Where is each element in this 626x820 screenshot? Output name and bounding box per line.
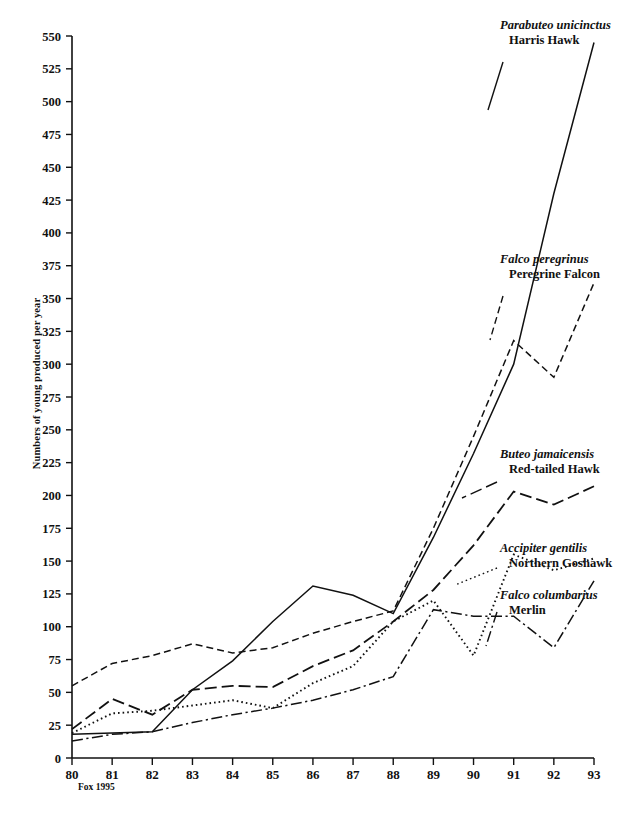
series-common-name: Peregrine Falcon bbox=[500, 267, 600, 282]
y-tick-label: 525 bbox=[42, 62, 61, 76]
x-tick-label: 83 bbox=[186, 767, 200, 782]
leader-line bbox=[486, 612, 497, 646]
series-label-northern-goshawk: Accipiter gentilis Northern Goshawk bbox=[500, 541, 612, 571]
y-tick-label: 425 bbox=[42, 194, 61, 208]
y-tick-label: 150 bbox=[42, 555, 61, 569]
source-note: Fox 1995 bbox=[78, 782, 115, 792]
chart-plot-area: 0255075100125150175200225250275300325350… bbox=[0, 0, 626, 820]
series-label-harris-hawk: Parabuteo unicinctus Harris Hawk bbox=[500, 18, 611, 48]
y-tick-label: 225 bbox=[42, 456, 61, 470]
series-scientific-name: Parabuteo unicinctus bbox=[500, 18, 611, 33]
leader-line bbox=[462, 482, 497, 498]
y-tick-label: 0 bbox=[55, 752, 61, 766]
x-tick-label: 84 bbox=[226, 767, 240, 782]
x-tick-label: 91 bbox=[507, 767, 520, 782]
y-tick-label: 275 bbox=[42, 391, 61, 405]
series-scientific-name: Buteo jamaicensis bbox=[500, 447, 600, 462]
y-tick-label: 100 bbox=[42, 620, 61, 634]
series-common-name: Merlin bbox=[500, 603, 598, 618]
x-tick-label: 87 bbox=[347, 767, 361, 782]
y-tick-label: 125 bbox=[42, 587, 61, 601]
series-scientific-name: Falco peregrinus bbox=[500, 252, 600, 267]
x-tick-label: 92 bbox=[547, 767, 560, 782]
data-series-group bbox=[72, 43, 594, 741]
x-tick-label: 88 bbox=[387, 767, 401, 782]
y-tick-label: 250 bbox=[42, 423, 61, 437]
y-tick-label: 25 bbox=[49, 719, 62, 733]
y-tick-label: 300 bbox=[42, 358, 61, 372]
x-tick-label: 82 bbox=[146, 767, 159, 782]
series-scientific-name: Accipiter gentilis bbox=[500, 541, 612, 556]
x-tick-label: 81 bbox=[106, 767, 119, 782]
x-tick-label: 89 bbox=[427, 767, 441, 782]
x-tick-label: 93 bbox=[588, 767, 602, 782]
y-tick-label: 200 bbox=[42, 489, 61, 503]
series-label-peregrine-falcon: Falco peregrinus Peregrine Falcon bbox=[500, 252, 600, 282]
y-tick-label: 50 bbox=[49, 686, 62, 700]
y-tick-label: 75 bbox=[49, 653, 62, 667]
series-label-red-tailed-hawk: Buteo jamaicensis Red-tailed Hawk bbox=[500, 447, 600, 477]
y-tick-label: 325 bbox=[42, 325, 61, 339]
series-line-northern-goshawk bbox=[72, 555, 594, 734]
series-common-name: Northern Goshawk bbox=[500, 556, 612, 571]
series-line-peregrine-falcon bbox=[72, 283, 594, 686]
y-tick-label: 400 bbox=[42, 226, 61, 240]
y-tick-label: 550 bbox=[42, 30, 61, 44]
y-tick-label: 500 bbox=[42, 95, 61, 109]
y-tick-label: 375 bbox=[42, 259, 61, 273]
x-tick-label: 85 bbox=[266, 767, 280, 782]
series-common-name: Red-tailed Hawk bbox=[500, 462, 600, 477]
x-tick-label: 90 bbox=[467, 767, 480, 782]
series-common-name: Harris Hawk bbox=[500, 33, 611, 48]
series-scientific-name: Falco columbarius bbox=[500, 588, 598, 603]
leader-line bbox=[490, 296, 503, 340]
y-tick-label: 175 bbox=[42, 522, 61, 536]
y-tick-label: 350 bbox=[42, 292, 61, 306]
x-tick-label: 80 bbox=[66, 767, 79, 782]
series-line-harris-hawk bbox=[72, 43, 594, 735]
y-axis-ticks: 0255075100125150175200225250275300325350… bbox=[42, 30, 72, 766]
leader-line bbox=[488, 62, 503, 110]
y-tick-label: 450 bbox=[42, 161, 61, 175]
leader-line bbox=[455, 568, 497, 585]
chart-figure: Numbers of young produced per year 02550… bbox=[0, 0, 626, 820]
x-axis-ticks: 8081828384858687888990919293 bbox=[66, 758, 602, 782]
y-tick-label: 475 bbox=[42, 128, 61, 142]
series-label-merlin: Falco columbarius Merlin bbox=[500, 588, 598, 618]
x-tick-label: 86 bbox=[306, 767, 320, 782]
